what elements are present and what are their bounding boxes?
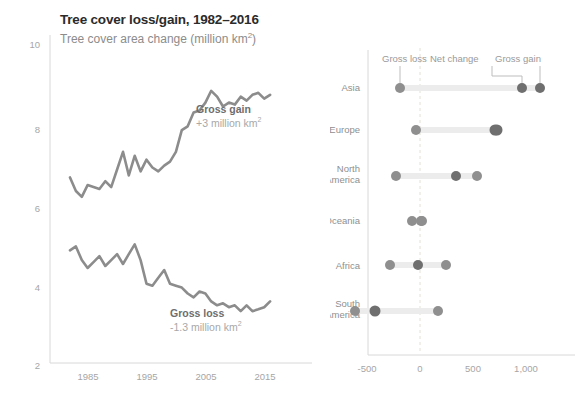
dot-south-america-gross-loss <box>350 306 360 316</box>
infographic-root: Tree cover loss/gain, 1982–2016 Tree cov… <box>0 0 587 403</box>
line-chart-panel: Tree cover loss/gain, 1982–2016 Tree cov… <box>0 0 330 403</box>
dot-south-america-net-change <box>370 306 381 317</box>
dot-x-tick-500: 500 <box>465 363 481 374</box>
dot-asia-net-change <box>517 83 527 93</box>
gross-loss-label: Gross loss <box>170 307 242 319</box>
region-label-europe: Europe <box>330 124 360 135</box>
dot-asia-gross-gain <box>535 83 545 93</box>
gross-loss-value-sup: 2 <box>238 320 242 327</box>
y-tick-2: 2 <box>35 360 40 371</box>
dot-asia-gross-loss <box>395 83 405 93</box>
dot-north-america-net-change <box>451 171 461 181</box>
x-tick-2015: 2015 <box>254 371 275 382</box>
line-chart-svg: 10 8 6 4 2 1985 1995 2005 2015 <box>0 0 330 403</box>
dot-x-tick-neg500: -500 <box>357 363 376 374</box>
region-label-oceania: Oceania <box>330 215 361 226</box>
x-tick-1995: 1995 <box>136 371 157 382</box>
dot-africa-gross-loss <box>385 260 395 270</box>
x-tick-2005: 2005 <box>195 371 216 382</box>
page-title: Tree cover loss/gain, 1982–2016 <box>60 12 259 27</box>
region-label-north-america-line2: America <box>330 174 361 185</box>
gross-loss-annotation: Gross loss -1.3 million km2 <box>170 307 242 333</box>
dot-x-tick-0: 0 <box>417 363 422 374</box>
dot-row-asia <box>395 83 545 93</box>
dot-north-america-gross-gain <box>472 171 482 181</box>
gross-loss-value: -1.3 million km2 <box>170 320 242 333</box>
x-tick-1985: 1985 <box>77 371 98 382</box>
y-tick-6: 6 <box>35 203 40 214</box>
dot-oceania-gross-loss <box>407 216 417 226</box>
subtitle-end: ) <box>252 32 256 46</box>
dot-europe-gross-gain <box>492 125 503 136</box>
gross-loss-line <box>70 244 270 311</box>
dot-x-tick-1000: 1,000 <box>514 363 538 374</box>
dot-europe-gross-loss <box>411 125 421 135</box>
gross-gain-value: +3 million km2 <box>196 116 261 129</box>
dot-row-europe <box>411 125 503 136</box>
subtitle-main: Tree cover area change (million km <box>60 32 248 46</box>
header-net-change: Net change <box>430 53 479 64</box>
leader-net-change <box>492 66 522 84</box>
region-label-north-america-line1: North <box>337 163 360 174</box>
header-gross-loss: Gross loss <box>382 53 427 64</box>
y-tick-10: 10 <box>29 39 40 50</box>
dot-oceania-gross-gain <box>417 216 427 226</box>
y-tick-8: 8 <box>35 124 40 135</box>
region-label-asia: Asia <box>342 82 361 93</box>
dot-africa-net-change <box>413 260 423 270</box>
dot-north-america-gross-loss <box>391 171 401 181</box>
page-subtitle: Tree cover area change (million km2) <box>60 31 256 46</box>
gross-loss-value-text: -1.3 million km <box>170 321 238 333</box>
gross-gain-value-text: +3 million km <box>196 117 258 129</box>
dot-south-america-gross-gain <box>433 306 443 316</box>
region-label-africa: Africa <box>336 260 361 271</box>
gross-gain-label: Gross gain <box>196 103 261 115</box>
dot-chart-panel: Gross loss Net change Gross gain Asia Eu… <box>330 0 587 403</box>
dot-row-south-america <box>350 306 443 317</box>
dot-row-oceania <box>407 216 427 226</box>
dot-chart-svg: Gross loss Net change Gross gain Asia Eu… <box>330 0 587 403</box>
dot-africa-gross-gain <box>441 260 451 270</box>
gross-gain-value-sup: 2 <box>258 116 262 123</box>
header-gross-gain: Gross gain <box>495 53 541 64</box>
y-tick-4: 4 <box>35 282 40 293</box>
dot-row-north-america <box>391 171 482 181</box>
dot-row-africa <box>385 260 451 270</box>
gross-gain-annotation: Gross gain +3 million km2 <box>196 103 261 129</box>
